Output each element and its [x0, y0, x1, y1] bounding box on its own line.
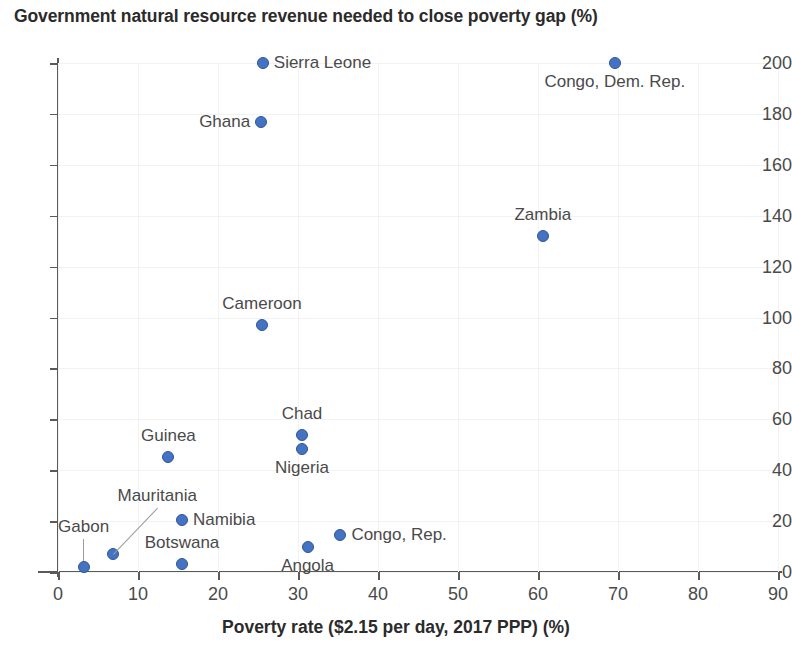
x-tick-mark — [218, 572, 220, 580]
data-point[interactable] — [302, 541, 314, 553]
data-point-label: Angola — [281, 556, 334, 576]
y-tick-label: 140 — [746, 205, 792, 226]
x-tick-mark — [778, 572, 780, 580]
y-tick-label: 160 — [746, 154, 792, 175]
data-point[interactable] — [296, 429, 308, 441]
data-point[interactable] — [255, 116, 267, 128]
x-tick-label: 90 — [755, 584, 792, 605]
x-tick-mark — [378, 572, 380, 580]
y-tick-mark — [50, 368, 58, 370]
x-tick-mark — [58, 572, 60, 580]
data-point[interactable] — [176, 514, 188, 526]
data-point-label: Namibia — [193, 510, 255, 530]
data-point-label: Congo, Dem. Rep. — [544, 72, 685, 92]
x-tick-label: 20 — [195, 584, 241, 605]
data-point-label: Mauritania — [118, 486, 197, 506]
y-tick-mark — [50, 572, 58, 574]
data-point-label: Cameroon — [222, 294, 301, 314]
x-tick-mark — [538, 572, 540, 580]
y-tick-label: 80 — [746, 358, 792, 379]
gridline-horizontal — [58, 572, 778, 573]
y-tick-mark — [50, 165, 58, 167]
gridline-horizontal — [58, 216, 778, 217]
y-tick-label: 40 — [746, 460, 792, 481]
x-tick-label: 60 — [515, 584, 561, 605]
x-tick-mark — [618, 572, 620, 580]
y-tick-mark — [50, 470, 58, 472]
x-tick-label: 10 — [115, 584, 161, 605]
gridline-horizontal — [58, 318, 778, 319]
chart-title: Government natural resource revenue need… — [14, 6, 598, 27]
y-tick-label: 120 — [746, 256, 792, 277]
gridline-horizontal — [58, 114, 778, 115]
data-point[interactable] — [609, 57, 621, 69]
y-tick-label: 100 — [746, 307, 792, 328]
x-tick-mark — [458, 572, 460, 580]
y-tick-label: 200 — [746, 53, 792, 74]
y-tick-mark — [50, 63, 58, 65]
data-point[interactable] — [78, 561, 90, 573]
gridline-horizontal — [58, 63, 778, 64]
y-tick-label: 20 — [746, 511, 792, 532]
data-point[interactable] — [257, 57, 269, 69]
data-point-label: Guinea — [141, 426, 196, 446]
y-tick-mark — [50, 318, 58, 320]
data-point-label: Gabon — [58, 517, 109, 537]
y-tick-mark — [50, 216, 58, 218]
y-tick-mark — [50, 521, 58, 523]
gridline-horizontal — [58, 368, 778, 369]
x-tick-mark — [698, 572, 700, 580]
y-tick-label: 180 — [746, 103, 792, 124]
data-point-label: Chad — [282, 404, 323, 424]
data-point-label: Sierra Leone — [274, 53, 371, 73]
x-tick-label: 70 — [595, 584, 641, 605]
y-tick-label: 60 — [746, 409, 792, 430]
x-tick-label: 50 — [435, 584, 481, 605]
gridline-horizontal — [58, 470, 778, 471]
y-tick-label: 0 — [746, 562, 792, 583]
data-point-label: Congo, Rep. — [351, 525, 446, 545]
data-point-label: Ghana — [199, 112, 250, 132]
x-axis-title: Poverty rate ($2.15 per day, 2017 PPP) (… — [0, 617, 792, 638]
data-point[interactable] — [537, 230, 549, 242]
y-tick-mark — [50, 267, 58, 269]
gridline-horizontal — [58, 267, 778, 268]
x-tick-label: 0 — [35, 584, 81, 605]
gridline-horizontal — [58, 521, 778, 522]
x-tick-label: 30 — [275, 584, 321, 605]
label-leader-line — [82, 539, 83, 561]
y-tick-mark — [50, 114, 58, 116]
y-tick-mark — [50, 419, 58, 421]
x-tick-label: 80 — [675, 584, 721, 605]
data-point-label: Zambia — [514, 205, 571, 225]
data-point-label: Botswana — [145, 533, 220, 553]
data-point[interactable] — [296, 443, 308, 455]
scatter-chart-figure: Government natural resource revenue need… — [0, 0, 792, 651]
data-point-label: Nigeria — [275, 458, 329, 478]
x-tick-label: 40 — [355, 584, 401, 605]
gridline-horizontal — [58, 165, 778, 166]
gridline-horizontal — [58, 419, 778, 420]
x-tick-mark — [138, 572, 140, 580]
